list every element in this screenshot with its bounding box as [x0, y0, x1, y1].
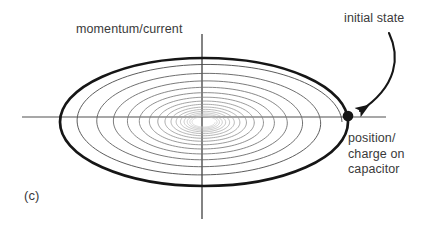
panel-label: (c) [24, 188, 39, 204]
x-axis-label-line-1: position/ [348, 131, 434, 147]
phase-space-figure: momentum/current initial state position/… [0, 0, 439, 235]
spiral-turn [192, 117, 217, 127]
damped-spiral-trajectory [77, 64, 342, 174]
y-axis-label: momentum/current [76, 22, 183, 38]
x-axis-label-line-2: charge on [348, 147, 434, 163]
x-axis-label: position/ charge on capacitor [348, 131, 434, 178]
initial-state-label: initial state [344, 11, 404, 27]
x-axis-label-line-3: capacitor [348, 162, 434, 178]
initial-state-dot [343, 111, 354, 122]
phase-portrait-canvas [0, 0, 439, 235]
initial-state-arrow [360, 33, 395, 111]
